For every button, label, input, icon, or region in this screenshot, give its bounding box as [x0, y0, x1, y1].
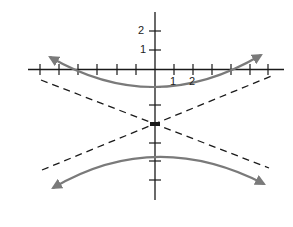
hyperbola-lower-branch — [53, 157, 264, 188]
x-tick-label-2: 2 — [189, 76, 195, 87]
y-tick-label-1: 1 — [140, 44, 146, 55]
x-tick-label-1: 1 — [170, 76, 176, 87]
asymptotes — [41, 75, 274, 170]
asymptote-positive-slope — [42, 75, 274, 170]
y-tick-label-2: 2 — [138, 25, 144, 36]
hyperbola-graph — [0, 0, 293, 227]
